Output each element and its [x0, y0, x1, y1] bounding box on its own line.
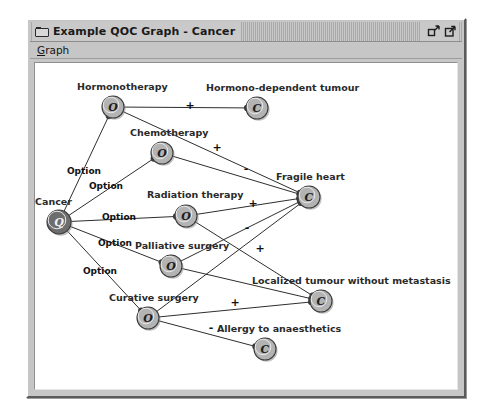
graph-node-hormonodep[interactable]: C — [246, 97, 270, 121]
title-bar-buttons — [421, 22, 459, 41]
node-glyph-cancer: Q — [54, 216, 64, 229]
edge-label-cancer-chemo: Option — [89, 181, 123, 191]
menu-item-graph[interactable]: Graph — [35, 43, 73, 57]
node-glyph-allergy: C — [261, 343, 270, 356]
graph-node-palliative[interactable]: O — [160, 255, 184, 279]
window-inner: Example QOC Graph - Cancer — [30, 22, 462, 394]
restore-icon[interactable] — [427, 25, 440, 38]
window-mini-icon — [35, 26, 48, 37]
graph-canvas[interactable]: QOOOOOCCCC OptionOptionOptionOptionOptio… — [34, 62, 458, 390]
node-glyph-radiation: O — [181, 210, 191, 223]
graph-edge[interactable] — [194, 221, 315, 298]
node-glyph-hormonodep: C — [253, 102, 262, 115]
edge-label-cancer-radiation: Option — [102, 212, 136, 222]
node-glyph-chemo: O — [157, 147, 167, 160]
edge-label-cancer-palliative: Option — [98, 238, 132, 248]
title-bar-filler — [241, 22, 421, 41]
node-glyph-curative: O — [143, 312, 153, 325]
edge-label-curative-localized: + — [230, 296, 239, 309]
graph-node-allergy[interactable]: C — [254, 338, 278, 362]
node-glyph-fragileheart: C — [305, 191, 314, 204]
qoc-graph-svg[interactable]: QOOOOOCCCC OptionOptionOptionOptionOptio… — [35, 63, 458, 390]
graph-node-cancer[interactable]: Q — [47, 210, 73, 236]
node-glyph-palliative: O — [166, 260, 176, 273]
edge-label-hormono-fragileheart: + — [212, 141, 221, 154]
node-label-curative: Curative surgery — [109, 292, 200, 303]
edge-label-curative-allergy: - — [209, 321, 214, 334]
node-label-palliative: Palliative surgery — [135, 240, 230, 251]
node-label-hormonodep: Hormono-dependent tumour — [206, 82, 359, 93]
node-glyph-localized: C — [317, 295, 326, 308]
node-label-allergy: Allergy to anaesthetics — [217, 323, 342, 334]
node-label-fragileheart: Fragile heart — [276, 171, 345, 182]
node-label-hormono: Hormonotherapy — [77, 81, 169, 92]
edge-label-palliative-localized: + — [255, 242, 264, 255]
node-label-localized: Localized tumour without metastasis — [252, 275, 451, 286]
application-window: Example QOC Graph - Cancer — [26, 18, 466, 398]
node-label-chemo: Chemotherapy — [130, 127, 209, 138]
edge-label-radiation-fragileheart: + — [248, 197, 257, 210]
title-bar-left: Example QOC Graph - Cancer — [33, 22, 241, 41]
edge-label-cancer-curative: Option — [83, 266, 117, 276]
menu-item-graph-mnemonic: G — [37, 44, 45, 56]
node-label-cancer: Cancer — [35, 196, 72, 207]
maximize-icon[interactable] — [444, 25, 457, 38]
node-glyph-hormono: O — [108, 101, 118, 114]
graph-node-hormono[interactable]: O — [102, 96, 126, 120]
menu-bar: Graph — [30, 42, 462, 59]
graph-node-fragileheart[interactable]: C — [298, 186, 322, 210]
graph-node-radiation[interactable]: O — [175, 205, 199, 229]
graph-node-localized[interactable]: C — [310, 290, 334, 314]
menu-item-graph-rest: raph — [45, 44, 69, 56]
graph-node-chemo[interactable]: O — [151, 142, 175, 166]
edge-label-palliative-fragileheart: - — [245, 221, 250, 234]
edge-label-cancer-hormono: Option — [67, 166, 101, 176]
node-label-radiation: Radiation therapy — [147, 189, 244, 200]
title-bar[interactable]: Example QOC Graph - Cancer — [30, 22, 462, 42]
edge-label-hormono-hormonodep: + — [185, 99, 194, 112]
edge-label-chemo-fragileheart: - — [244, 162, 249, 175]
screenshot-root: Example QOC Graph - Cancer — [0, 0, 482, 418]
window-title: Example QOC Graph - Cancer — [53, 25, 235, 38]
